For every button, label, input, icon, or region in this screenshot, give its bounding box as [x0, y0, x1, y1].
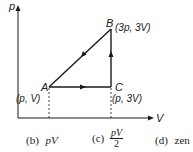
arrow-up-icon	[109, 51, 114, 57]
point-b-label: B	[106, 18, 113, 29]
option-d[interactable]: (d) zen	[155, 135, 190, 146]
point-a-coord: (p, V)	[16, 94, 40, 104]
option-d-value: zen	[175, 134, 190, 146]
option-c-denominator: 2	[110, 139, 123, 149]
point-a-label: A	[41, 82, 48, 93]
v-axis-label: V	[156, 113, 163, 124]
point-c-coord: (p, 3V)	[112, 94, 142, 104]
arrow-right-icon	[80, 85, 86, 90]
pv-diagram: p V A (p, V) B (3p, 3V) C (p, 3V) (b) pV…	[0, 0, 193, 152]
v-axis-arrow-icon	[148, 116, 154, 121]
option-c-fraction: pV 2	[110, 128, 123, 149]
point-b-coord: (3p, 3V)	[115, 23, 151, 33]
option-c-label: (c)	[92, 132, 104, 144]
p-axis-arrow-icon	[16, 5, 21, 11]
point-c-label: C	[115, 82, 123, 93]
option-b-label: (b)	[26, 134, 39, 146]
option-c[interactable]: (c) pV 2	[92, 128, 123, 149]
p-axis-label: p	[9, 1, 15, 12]
option-b-value: pV	[46, 134, 58, 146]
option-d-label: (d)	[155, 134, 168, 146]
option-b[interactable]: (b) pV	[26, 135, 58, 146]
process-b-to-a	[49, 29, 111, 87]
